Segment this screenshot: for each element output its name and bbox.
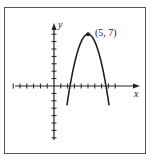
vertex-point xyxy=(86,32,90,36)
x-axis-label: x xyxy=(133,88,139,99)
parabola-curve xyxy=(67,34,109,105)
plot: y x (5, 7) xyxy=(0,0,152,161)
y-axis-arrow-icon xyxy=(52,23,57,30)
y-axis-label: y xyxy=(57,19,63,30)
vertex-label: (5, 7) xyxy=(95,27,117,39)
